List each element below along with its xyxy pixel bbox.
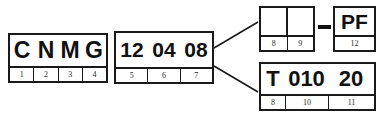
tolerance-label-12: 12 xyxy=(335,37,374,50)
dimensions-label-7: 7 xyxy=(180,69,212,82)
dimensions-label-6: 6 xyxy=(147,69,179,82)
designation-label-2: 2 xyxy=(33,68,57,81)
chipbreaker-block: T 010 20 8 10 11 xyxy=(259,62,376,111)
blank-cell-9 xyxy=(286,8,313,35)
chipbreaker-cell-11: 20 xyxy=(328,64,374,94)
blank-block: 8 9 xyxy=(259,6,315,52)
tolerance-value-row: PF xyxy=(335,8,374,35)
designation-cell-1: C xyxy=(10,35,34,66)
tolerance-block: PF 12 xyxy=(333,6,376,52)
connector-line-lower xyxy=(214,66,258,92)
designation-cell-3: M xyxy=(58,35,82,66)
chipbreaker-cell-10: 010 xyxy=(285,64,328,94)
designation-cell-4: G xyxy=(82,35,106,66)
insert-code-diagram: C N M G 1 2 3 4 12 04 08 5 6 7 8 xyxy=(0,0,381,116)
dimensions-label-5: 5 xyxy=(116,69,147,82)
dimensions-cell-1: 12 xyxy=(116,33,148,67)
chipbreaker-label-8: 8 xyxy=(261,96,285,109)
blank-value-row xyxy=(261,8,313,35)
tolerance-cell-12: PF xyxy=(335,8,374,35)
tolerance-label-row: 12 xyxy=(335,35,374,50)
dimensions-cell-2: 04 xyxy=(148,33,180,67)
chipbreaker-label-row: 8 10 11 xyxy=(261,94,374,109)
designation-label-row: 1 2 3 4 xyxy=(10,66,106,81)
chipbreaker-label-11: 11 xyxy=(328,96,374,109)
dimensions-block: 12 04 08 5 6 7 xyxy=(114,31,214,84)
dimensions-label-row: 5 6 7 xyxy=(116,67,212,82)
dimensions-value-row: 12 04 08 xyxy=(116,33,212,67)
chipbreaker-cell-8: T xyxy=(261,64,285,94)
connector-line-upper xyxy=(214,22,258,48)
blank-label-8: 8 xyxy=(261,37,287,50)
chipbreaker-label-10: 10 xyxy=(285,96,328,109)
designation-label-1: 1 xyxy=(10,68,33,81)
dimensions-cell-3: 08 xyxy=(180,33,212,67)
chipbreaker-value-row: T 010 20 xyxy=(261,64,374,94)
designation-label-3: 3 xyxy=(58,68,82,81)
blank-cell-8 xyxy=(261,8,286,35)
designation-block: C N M G 1 2 3 4 xyxy=(8,33,108,83)
designation-cell-2: N xyxy=(34,35,58,66)
designation-label-4: 4 xyxy=(82,68,106,81)
designation-value-row: C N M G xyxy=(10,35,106,66)
blank-label-9: 9 xyxy=(287,37,314,50)
blank-label-row: 8 9 xyxy=(261,35,313,50)
separator-dash-icon xyxy=(318,25,331,29)
